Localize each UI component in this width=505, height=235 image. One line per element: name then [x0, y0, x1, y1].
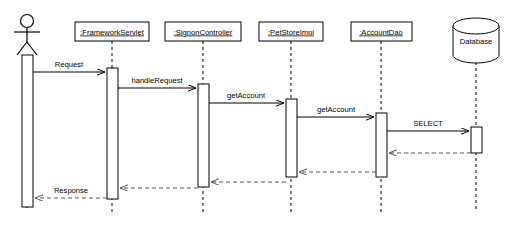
participant-label-signoncontroller: :SignonController: [174, 28, 233, 37]
return-label-response: Response: [54, 186, 88, 195]
participant-box-accountdao[interactable]: :AccountDao: [351, 22, 412, 41]
message-label-select: SELECT: [413, 119, 443, 128]
participant-box-signoncontroller[interactable]: :SignonController: [165, 22, 241, 41]
activation-frameworkservlet: [107, 68, 118, 199]
message-getaccount-1[interactable]: getAccount: [209, 91, 284, 103]
database-label: Database: [460, 37, 493, 46]
database-cylinder-icon[interactable]: Database: [453, 18, 499, 63]
participant-label-accountdao: :AccountDao: [359, 28, 402, 37]
message-select[interactable]: SELECT: [387, 119, 469, 131]
activation-database: [471, 127, 482, 153]
participant-box-petstoreimpl[interactable]: :PetStoreImpl: [259, 22, 323, 41]
activation-actor: [22, 55, 33, 207]
message-label-handlerequest: handleRequest: [131, 76, 183, 85]
actor-figure: [14, 15, 40, 56]
participant-label-petstoreimpl: :PetStoreImpl: [268, 28, 314, 37]
activation-signoncontroller: [198, 84, 209, 187]
sequence-diagram-svg: :FrameworkServlet :SignonController :Pet…: [0, 0, 505, 235]
activation-petstoreimpl: [286, 99, 297, 177]
return-response[interactable]: Response: [35, 186, 107, 198]
message-label-getaccount-1: getAccount: [227, 91, 266, 100]
message-handlerequest[interactable]: handleRequest: [118, 76, 196, 88]
activation-accountdao: [376, 113, 387, 177]
message-label-getaccount-2: getAccount: [317, 105, 356, 114]
message-label-request: Request: [55, 60, 84, 69]
participant-box-frameworkservlet[interactable]: :FrameworkServlet: [75, 22, 149, 41]
lifelines-group: [27, 41, 476, 212]
message-request[interactable]: Request: [33, 60, 105, 72]
message-getaccount-2[interactable]: getAccount: [297, 105, 374, 117]
participant-label-frameworkservlet: :FrameworkServlet: [80, 28, 145, 37]
sequence-diagram-canvas: :FrameworkServlet :SignonController :Pet…: [0, 0, 505, 235]
